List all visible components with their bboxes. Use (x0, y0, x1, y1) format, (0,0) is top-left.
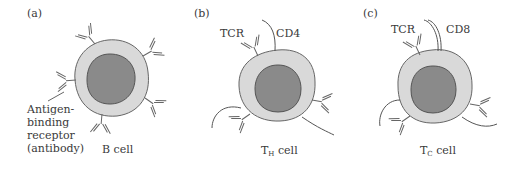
tcr-label-b: TCR (220, 28, 244, 40)
tc-cell (380, 20, 497, 135)
receptor-label-line4: (antibody) (27, 143, 84, 155)
receptor-label-line3: receptor (27, 130, 75, 142)
receptor-label-line1: Antigen- (27, 104, 74, 116)
cd8-label: CD8 (446, 24, 470, 36)
tcr-label-c: TCR (391, 24, 415, 36)
b-cell-label: B cell (102, 144, 133, 156)
panel-a-tag: (a) (27, 8, 42, 20)
cd4-label: CD4 (276, 28, 300, 40)
panel-b-tag: (b) (194, 8, 210, 20)
receptor-label-line2: binding (27, 117, 69, 129)
th-cell-label: TH cell (261, 145, 298, 160)
panel-c-tag: (c) (363, 8, 378, 20)
tc-cell-label: TC cell (420, 145, 456, 160)
